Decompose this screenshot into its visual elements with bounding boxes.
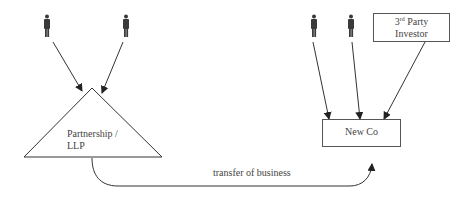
edge-person3-newco [313, 42, 329, 119]
third-party-word: Party [405, 16, 429, 27]
edge-person1-partnership [53, 42, 82, 91]
edge-thirdparty-newco [384, 42, 425, 119]
person-icon [44, 15, 50, 38]
partnership-label-line2: LLP [67, 140, 85, 151]
person-icon [348, 15, 354, 38]
newco-box: New Co [322, 119, 401, 147]
newco-label: New Co [323, 126, 400, 138]
transfer-of-business-label: transfer of business [213, 167, 291, 179]
partnership-label-line1: Partnership / [67, 128, 118, 139]
third-party-investor-box: 3rd Party Investor [373, 13, 450, 42]
partnership-label: Partnership / LLP [67, 128, 118, 152]
edge-person2-partnership [102, 42, 123, 93]
third-party-investor-label: 3rd Party Investor [374, 16, 449, 40]
person-icon [123, 15, 129, 38]
person-icon [311, 15, 317, 38]
edge-person4-newco [352, 42, 360, 119]
investor-word: Investor [395, 28, 428, 39]
